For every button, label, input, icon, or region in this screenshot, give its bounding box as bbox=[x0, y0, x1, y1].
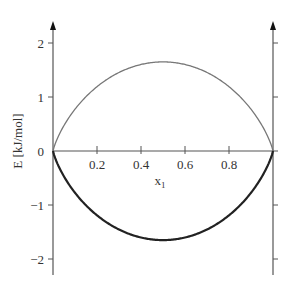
axes bbox=[48, 21, 278, 275]
y-tick-label: −2 bbox=[30, 252, 44, 267]
upper-curve bbox=[53, 62, 273, 151]
y-tick-label: 0 bbox=[38, 144, 45, 159]
y-tick-label: −1 bbox=[30, 198, 44, 213]
lower-curve bbox=[53, 151, 273, 240]
x-tick-label: 0.6 bbox=[177, 157, 194, 172]
arrow-up-icon bbox=[50, 21, 56, 30]
x-axis-label-subscript: 1 bbox=[161, 180, 166, 190]
x-axis-label: x1 bbox=[155, 173, 166, 190]
arrow-up-icon bbox=[270, 21, 276, 30]
chart: 0.20.40.60.8210−1−2x1E [kJ/mol] bbox=[0, 0, 293, 290]
x-tick-label: 0.8 bbox=[221, 157, 237, 172]
y-axis-label: E [kJ/mol] bbox=[10, 113, 25, 168]
y-tick-label: 1 bbox=[38, 90, 45, 105]
x-tick-label: 0.2 bbox=[89, 157, 105, 172]
y-tick-label: 2 bbox=[38, 36, 45, 51]
x-tick-label: 0.4 bbox=[133, 157, 150, 172]
